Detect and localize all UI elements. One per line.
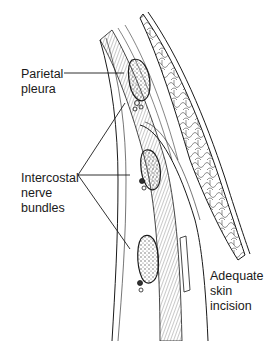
nerve-leader-bottom (78, 175, 130, 249)
chest-wall-diagram: Parietal pleura Intercostal nerve bundle… (0, 0, 273, 341)
parietal-pleura-label: Parietal pleura (21, 67, 63, 97)
intercostal-nerve-bundles-label: Intercostal nerve bundles (21, 171, 79, 216)
adequate-skin-incision-label: Adequate skin incision (210, 269, 273, 314)
skin-incision-marker (180, 236, 190, 292)
nerve-bundle-3 (138, 281, 144, 293)
rib-3 (138, 235, 159, 283)
